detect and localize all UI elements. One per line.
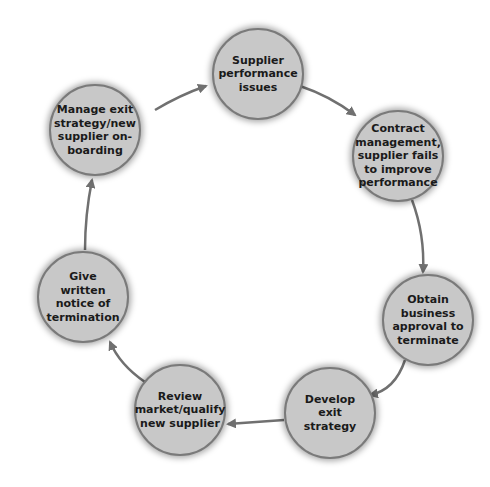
node-contract-management: Contract management, supplier fails to i… bbox=[352, 110, 444, 202]
node-label: Manage exit strategy/new supplier on-boa… bbox=[48, 103, 142, 157]
arrow-n2-n3 bbox=[412, 200, 423, 272]
node-obtain-business-approval: Obtain business approval to terminate bbox=[382, 274, 474, 366]
node-label: Give written notice of termination bbox=[38, 270, 127, 324]
arrow-n1-n2 bbox=[300, 86, 355, 115]
node-label: Develop exit strategy bbox=[286, 393, 374, 434]
node-review-market: Review market/qualify new supplier bbox=[134, 364, 226, 456]
arrow-n7-n1 bbox=[155, 86, 206, 110]
arrow-n3-n4 bbox=[370, 360, 405, 395]
node-supplier-performance-issues: Supplier performance issues bbox=[212, 28, 304, 120]
node-give-written-notice: Give written notice of termination bbox=[37, 251, 129, 343]
node-manage-exit-strategy: Manage exit strategy/new supplier on-boa… bbox=[49, 84, 141, 176]
arrow-n5-n6 bbox=[110, 342, 145, 382]
node-label: Obtain business approval to terminate bbox=[384, 293, 472, 347]
node-label: Contract management, supplier fails to i… bbox=[351, 122, 445, 190]
node-label: Supplier performance issues bbox=[212, 54, 303, 95]
node-develop-exit-strategy: Develop exit strategy bbox=[284, 367, 376, 459]
arrow-n6-n7 bbox=[85, 180, 92, 250]
node-label: Review market/qualify new supplier bbox=[132, 390, 229, 431]
arrow-n4-n5 bbox=[228, 420, 284, 424]
